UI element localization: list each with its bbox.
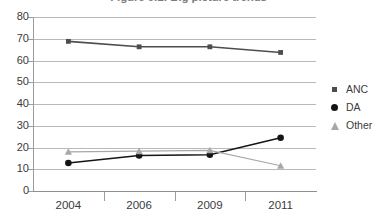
chart-title: Figure 9.1: Big picture trends [0,0,377,3]
legend-item-other[interactable]: Other [330,117,372,133]
y-axis-tick-label: 60 [3,54,29,66]
gridline [33,126,316,127]
y-axis-tick-label: 40 [3,97,29,109]
y-axis-tick-label: 30 [3,119,29,131]
y-axis-tick-label: 0 [3,184,29,196]
circle-marker-icon [330,101,342,113]
gridline [33,82,316,83]
legend-label: Other [346,119,372,131]
y-axis-tick-label: 20 [3,141,29,153]
x-axis-tick-label: 2011 [253,199,309,211]
legend-label: ANC [346,83,368,95]
x-axis-tick-label: 2004 [40,199,96,211]
y-axis-tick-label: 80 [3,10,29,22]
plot-area [33,17,316,191]
gridline [33,61,316,62]
legend-label: DA [346,101,361,113]
triangle-marker-icon [330,119,342,131]
x-axis-tick-label: 2009 [182,199,238,211]
gridline [33,104,316,105]
gridline [33,169,316,170]
y-axis-line [33,17,34,192]
y-axis-tick-label: 70 [3,32,29,44]
x-tick-mark [175,192,176,201]
x-axis-tick-label: 2006 [111,199,167,211]
y-axis-tick-label: 50 [3,75,29,87]
legend-item-da[interactable]: DA [330,99,372,115]
line-chart: Figure 9.1: Big picture trends ANC DA Ot… [0,0,377,216]
legend-item-anc[interactable]: ANC [330,81,372,97]
gridline [33,17,316,18]
gridline [33,148,316,149]
y-axis-tick-label: 10 [3,162,29,174]
chart-legend: ANC DA Other [330,81,372,135]
x-tick-mark [245,192,246,201]
gridline [33,39,316,40]
square-marker-icon [330,83,342,95]
x-tick-mark [104,192,105,201]
